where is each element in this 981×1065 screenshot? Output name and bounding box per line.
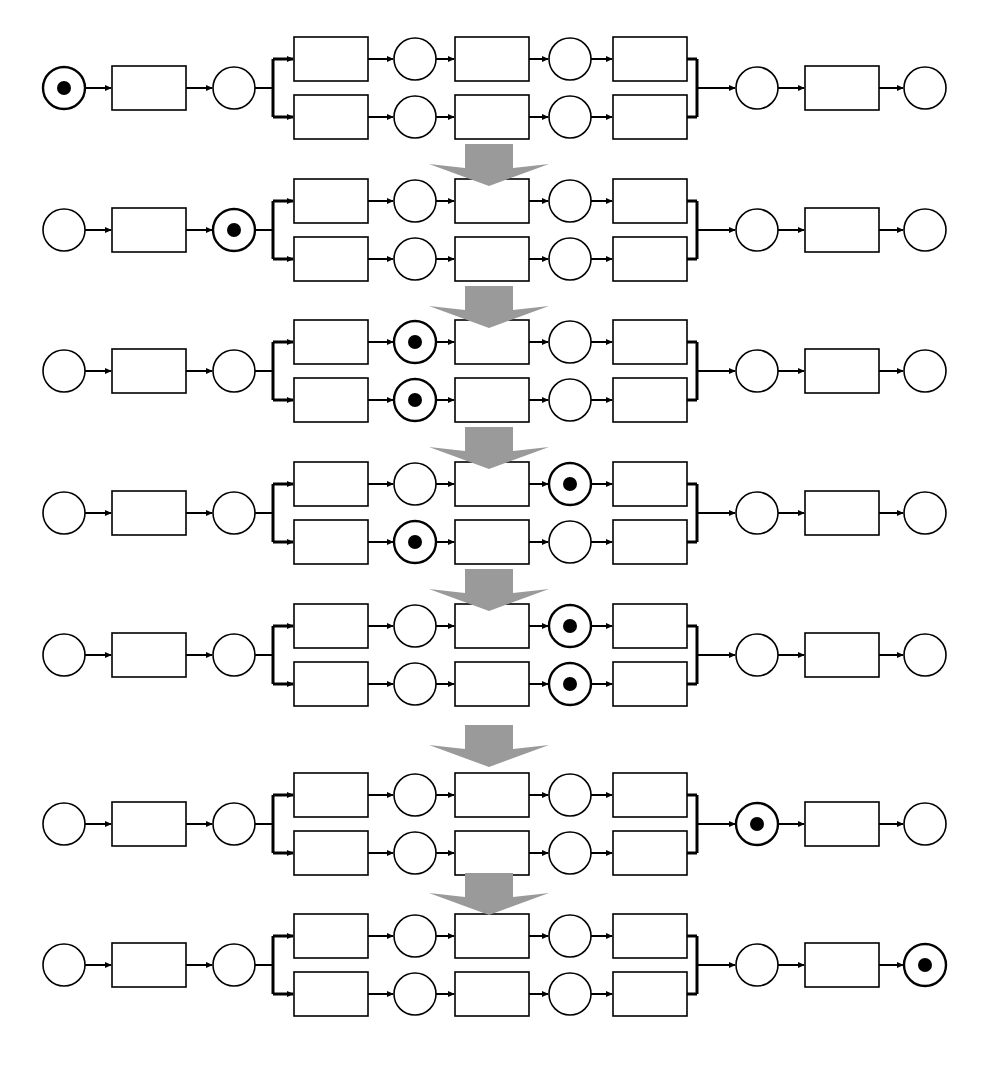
transition-top-1 [294, 914, 368, 958]
transition-top-3 [613, 179, 687, 223]
transition-top-1 [294, 604, 368, 648]
place-bottom-2 [549, 521, 591, 563]
transition-start [112, 633, 186, 677]
transition-top-1 [294, 462, 368, 506]
place-end [904, 944, 946, 986]
token-dot [563, 619, 577, 633]
step-arrow-6 [429, 873, 549, 915]
transition-bottom-2 [455, 520, 529, 564]
transition-top-3 [613, 914, 687, 958]
place-start [43, 492, 85, 534]
place-top-1 [394, 774, 436, 816]
place-pre-fork [213, 67, 255, 109]
step-arrow-4 [429, 569, 549, 611]
place-bottom-2 [549, 973, 591, 1015]
step-arrow-1 [429, 144, 549, 186]
place-top-1 [394, 180, 436, 222]
transition-bottom-1 [294, 662, 368, 706]
petri-net-row-1 [0, 23, 981, 153]
transition-top-3 [613, 773, 687, 817]
place-bottom-2 [549, 663, 591, 705]
place-top-1 [394, 38, 436, 80]
place-bottom-2 [549, 832, 591, 874]
place-start [43, 944, 85, 986]
token-dot [918, 958, 932, 972]
place-top-2 [549, 180, 591, 222]
petri-net-row-7 [0, 900, 981, 1030]
transition-bottom-2 [455, 378, 529, 422]
transition-end [805, 208, 879, 252]
place-post-join [736, 634, 778, 676]
transition-end [805, 349, 879, 393]
place-bottom-1 [394, 832, 436, 874]
place-bottom-2 [549, 96, 591, 138]
place-start [43, 803, 85, 845]
transition-bottom-3 [613, 662, 687, 706]
place-bottom-2 [549, 238, 591, 280]
transition-bottom-1 [294, 237, 368, 281]
place-top-2 [549, 321, 591, 363]
transition-end [805, 943, 879, 987]
transition-top-3 [613, 462, 687, 506]
place-pre-fork [213, 944, 255, 986]
transition-top-1 [294, 773, 368, 817]
place-post-join [736, 803, 778, 845]
transition-bottom-2 [455, 662, 529, 706]
place-end [904, 803, 946, 845]
transition-top-1 [294, 37, 368, 81]
place-end [904, 492, 946, 534]
token-dot [408, 335, 422, 349]
place-bottom-1 [394, 379, 436, 421]
step-arrow-2 [429, 286, 549, 328]
step-arrow-3 [429, 427, 549, 469]
place-post-join [736, 209, 778, 251]
transition-start [112, 943, 186, 987]
transition-bottom-2 [455, 237, 529, 281]
transition-bottom-2 [455, 95, 529, 139]
place-pre-fork [213, 350, 255, 392]
transition-top-2 [455, 37, 529, 81]
transition-bottom-3 [613, 95, 687, 139]
place-pre-fork [213, 803, 255, 845]
transition-bottom-1 [294, 520, 368, 564]
place-top-1 [394, 605, 436, 647]
token-dot [750, 817, 764, 831]
place-end [904, 67, 946, 109]
transition-bottom-3 [613, 237, 687, 281]
transition-start [112, 349, 186, 393]
place-post-join [736, 492, 778, 534]
place-start [43, 209, 85, 251]
transition-bottom-2 [455, 831, 529, 875]
transition-bottom-2 [455, 972, 529, 1016]
step-arrow-5 [429, 725, 549, 767]
transition-bottom-3 [613, 831, 687, 875]
transition-top-3 [613, 37, 687, 81]
place-bottom-1 [394, 521, 436, 563]
place-end [904, 209, 946, 251]
token-dot [408, 535, 422, 549]
transition-top-1 [294, 179, 368, 223]
place-top-2 [549, 38, 591, 80]
place-post-join [736, 350, 778, 392]
place-bottom-2 [549, 379, 591, 421]
place-pre-fork [213, 492, 255, 534]
transition-bottom-1 [294, 972, 368, 1016]
place-post-join [736, 944, 778, 986]
place-post-join [736, 67, 778, 109]
token-dot [408, 393, 422, 407]
place-bottom-1 [394, 973, 436, 1015]
transition-bottom-3 [613, 972, 687, 1016]
place-bottom-1 [394, 238, 436, 280]
token-dot [563, 477, 577, 491]
transition-top-3 [613, 320, 687, 364]
transition-end [805, 491, 879, 535]
transition-bottom-3 [613, 520, 687, 564]
transition-end [805, 802, 879, 846]
transition-start [112, 491, 186, 535]
transition-end [805, 633, 879, 677]
token-dot [563, 677, 577, 691]
transition-top-1 [294, 320, 368, 364]
petri-net-figure [0, 0, 981, 1065]
place-bottom-1 [394, 663, 436, 705]
transition-end [805, 66, 879, 110]
